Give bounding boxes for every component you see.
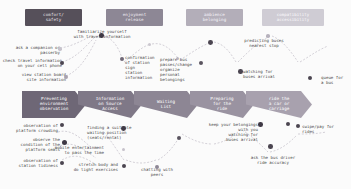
- note-swipe-pay-for-rides: swipe/pay for rides: [302, 124, 334, 134]
- note-observation-platform-crowding: observation of platform crowding: [0, 123, 58, 133]
- note-watching-for-buses-arrival: watching for buses arrival: [243, 69, 275, 79]
- touchpoint-dot[interactable]: [120, 57, 124, 61]
- note-line: platform crowding: [0, 128, 58, 133]
- note-keep-your-belongings: keep your belongings with you watching f…: [180, 122, 258, 142]
- touchpoint-dot[interactable]: [99, 33, 104, 38]
- note-line: passerby: [0, 50, 60, 55]
- note-line: buses arrival: [180, 137, 258, 142]
- note-view-station-board: view station board site information: [0, 72, 66, 82]
- touchpoint-dot[interactable]: [258, 122, 263, 127]
- legend-item-label-line2: safety: [46, 18, 62, 23]
- note-line: ride accuracy: [232, 160, 314, 165]
- touchpoint-dot[interactable]: [58, 47, 62, 51]
- note-line: (seats/rental): [87, 135, 131, 140]
- note-line: belongings: [160, 77, 192, 82]
- legend-item-ambience-belonging[interactable]: ambience belonging: [186, 9, 243, 26]
- touchpoint-dot[interactable]: [64, 75, 68, 79]
- legend-item-compatibility-accessibility[interactable]: compatibility accessibility: [262, 9, 324, 26]
- note-predicting-buses: predicting buses nearest stop: [228, 38, 300, 48]
- note-line: rides: [302, 129, 334, 134]
- note-ask-the-bus-driver: ask the bus driver ride accuracy: [232, 155, 314, 165]
- legend-item-label-line2: release: [125, 18, 143, 23]
- note-prepare-bus-passes: prepare bus passes/change organize perso…: [160, 57, 192, 82]
- note-ask-a-companion: ask a companion or passerby: [0, 45, 60, 55]
- note-line: do light exercises: [28, 167, 118, 172]
- note-stretch-body: stretch body and do light exercises: [28, 162, 118, 172]
- touchpoint-dot[interactable]: [266, 34, 270, 38]
- note-line: buses arrival: [243, 74, 275, 79]
- note-line: a bus: [321, 80, 343, 85]
- note-line: nearest stop: [228, 43, 300, 48]
- legend-item-enjoyment-release[interactable]: enjoyment release: [106, 9, 163, 26]
- touchpoint-dot[interactable]: [121, 126, 126, 131]
- note-line: site information: [0, 77, 66, 82]
- journey-map-canvas: comfort/ safety enjoyment release ambien…: [0, 0, 351, 189]
- touchpoint-dot[interactable]: [155, 165, 159, 169]
- note-line: to pass the time: [20, 150, 104, 155]
- note-line: peers: [129, 172, 185, 177]
- stage-label-line2: List: [161, 105, 171, 110]
- note-queue-for-a-bus: queue for a bus: [321, 75, 343, 85]
- note-line: on your cell phone: [0, 63, 62, 68]
- touchpoint-dot[interactable]: [268, 144, 273, 149]
- legend-item-label-line2: belonging: [203, 18, 227, 23]
- stage-label-line3: ride: [217, 107, 227, 112]
- touchpoint-dot[interactable]: [238, 69, 243, 74]
- touchpoint-dot[interactable]: [208, 40, 213, 45]
- note-check-travel-information: check travel information on your cell ph…: [0, 58, 62, 68]
- note-mobile-entertainment: mobile entertainment to pass the time: [20, 145, 104, 155]
- legend-item-label-line2: accessibility: [277, 18, 310, 22]
- touchpoint-dot[interactable]: [62, 140, 67, 145]
- note-line: information: [125, 75, 155, 80]
- stage-label-line3: observation: [40, 107, 68, 112]
- stage-previsiting-environment-observation[interactable]: Preventing environment observation: [22, 91, 86, 118]
- stage-label-line3: Access: [102, 107, 118, 112]
- legend-item-comfort-safety[interactable]: comfort/ safety: [25, 9, 82, 26]
- note-confirmation-of-station-sign: confirmation of station sign station inf…: [125, 55, 155, 80]
